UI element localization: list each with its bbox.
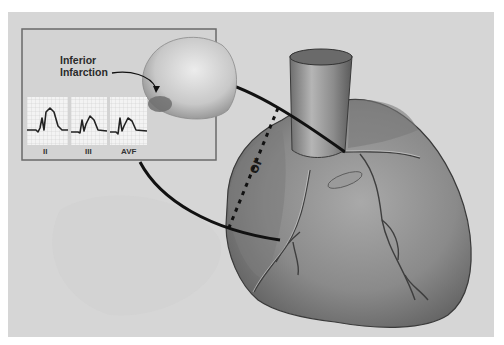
ecg-strip-ii xyxy=(27,97,68,145)
ecg-strip-avf xyxy=(110,97,147,145)
callout-label: Inferior Infarction xyxy=(60,54,108,78)
ecg-strip-iii xyxy=(71,97,107,145)
ecg-strips xyxy=(27,97,147,145)
lead-label-iii: III xyxy=(85,147,92,156)
lead-label-avf: AVF xyxy=(121,147,136,156)
callout-line-2: Infarction xyxy=(60,66,108,78)
callout-line-1: Inferior xyxy=(60,54,108,66)
lead-label-ii: II xyxy=(43,147,47,156)
heart xyxy=(226,49,471,327)
infarct-region xyxy=(148,96,172,112)
